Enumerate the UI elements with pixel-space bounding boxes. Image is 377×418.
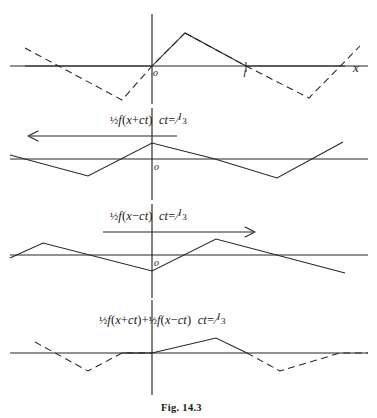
origin-label-panel-1: o — [153, 68, 158, 78]
left-travelling-wave — [10, 142, 343, 178]
figure-container: o l x o o ½f(x+ct) ct=l⁄3 ½f(x−ct) ct=l⁄… — [0, 0, 377, 418]
l-over-3-fraction: l⁄3 — [175, 113, 188, 126]
figure-svg — [0, 0, 377, 418]
one-half-symbol: ½ — [99, 314, 107, 326]
panel-right-wave — [10, 204, 368, 298]
l-over-3-fraction: l⁄3 — [214, 313, 227, 326]
one-half-symbol: ½ — [149, 314, 157, 326]
origin-label-panel-2: o — [154, 162, 159, 172]
equation-right-wave: ½f(x−ct) ct=l⁄3 — [110, 209, 188, 224]
length-label-panel-1: l — [243, 68, 246, 79]
one-half-symbol: ½ — [110, 210, 118, 222]
panel-initial — [10, 14, 368, 104]
figure-caption: Fig. 14.3 — [161, 402, 202, 413]
origin-label-panel-3: o — [154, 258, 159, 268]
equation-left-wave: ½f(x+ct) ct=l⁄3 — [110, 113, 188, 128]
superposition-solid — [122, 338, 247, 353]
one-half-symbol: ½ — [110, 114, 118, 126]
superposition-dashed-right — [247, 353, 368, 371]
equation-superposition: ½f(x+ct)+½f(x−ct) ct=l⁄3 — [99, 313, 227, 328]
l-over-3-fraction: l⁄3 — [175, 209, 188, 222]
right-travelling-wave — [10, 239, 345, 273]
x-axis-label: x — [353, 61, 359, 74]
initial-displacement-solid — [25, 33, 345, 66]
panel-left-wave — [10, 108, 368, 200]
superposition-dashed-left — [35, 342, 152, 371]
